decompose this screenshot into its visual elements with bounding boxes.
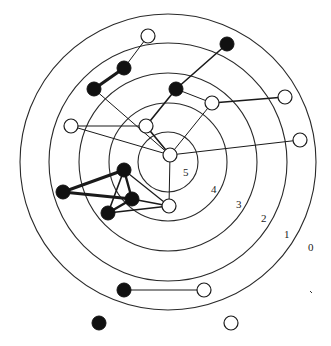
ring-label: 5 — [183, 166, 189, 178]
filled-node — [92, 316, 106, 330]
edge — [212, 97, 285, 103]
open-node — [64, 119, 78, 133]
ring-label: 1 — [284, 228, 290, 240]
edge — [176, 44, 227, 89]
concentric-graph-diagram: 543210 — [0, 0, 331, 346]
stray-mark — [310, 291, 312, 293]
stray-marks — [310, 291, 312, 293]
filled-node — [87, 82, 101, 96]
open-node — [141, 29, 155, 43]
open-node — [293, 133, 307, 147]
edge — [94, 89, 170, 155]
open-node — [163, 148, 177, 162]
filled-node — [220, 37, 234, 51]
filled-node — [56, 185, 70, 199]
open-node — [139, 119, 153, 133]
open-node — [224, 316, 238, 330]
open-node — [197, 283, 211, 297]
ring-label: 0 — [308, 241, 314, 253]
filled-node — [117, 283, 131, 297]
filled-node — [101, 206, 115, 220]
filled-node — [125, 192, 139, 206]
filled-node — [117, 163, 131, 177]
edge — [170, 103, 212, 155]
open-node — [162, 199, 176, 213]
filled-node — [169, 82, 183, 96]
open-node — [278, 90, 292, 104]
ring-label: 3 — [236, 198, 242, 210]
edge — [71, 126, 170, 155]
open-node — [205, 96, 219, 110]
edge — [169, 155, 170, 206]
edge — [63, 192, 132, 199]
edge — [170, 140, 300, 155]
ring-label: 4 — [211, 183, 217, 195]
ring-label: 2 — [261, 212, 267, 224]
filled-node — [117, 61, 131, 75]
